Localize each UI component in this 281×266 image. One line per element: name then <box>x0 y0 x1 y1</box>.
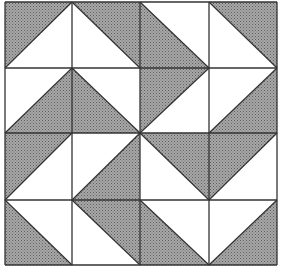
quilt-diagram <box>0 0 281 266</box>
